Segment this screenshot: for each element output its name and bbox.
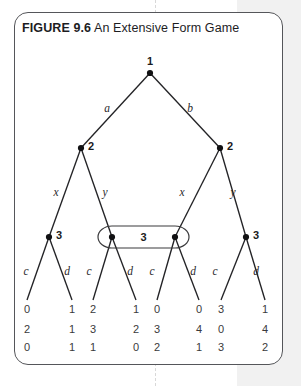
action-label-y: y: [229, 186, 236, 199]
payoff-value: 2: [90, 303, 96, 315]
decision-node-player-3: [172, 234, 178, 240]
decision-node-player-3: [109, 234, 115, 240]
tree-edge-c: [93, 237, 112, 300]
tree-edge-labels: abxyxycdcdcdcd: [23, 102, 259, 277]
tree-edges: [27, 73, 265, 300]
tree-edge-c: [157, 237, 175, 300]
payoff-value: 2: [154, 341, 160, 353]
payoff-value: 1: [196, 341, 202, 353]
decision-node-player-2: [78, 145, 84, 151]
payoff-value: 4: [196, 323, 202, 335]
action-label-d: d: [127, 265, 133, 277]
tree-edge-c: [27, 237, 49, 300]
action-label-a: a: [104, 102, 110, 114]
payoff-value: 0: [218, 323, 224, 335]
payoff-value: 1: [133, 303, 139, 315]
payoff-value: 1: [262, 303, 268, 315]
payoff-value: 3: [154, 323, 160, 335]
decision-node-player-3: [46, 234, 52, 240]
action-label-d: d: [64, 265, 70, 277]
payoff-value: 0: [24, 303, 30, 315]
action-label-b: b: [187, 102, 193, 114]
node-player-label: 3: [56, 229, 62, 241]
node-player-label: 2: [227, 140, 233, 152]
figure-page: FIGURE 9.6 An Extensive Form Game 3 1223…: [0, 0, 301, 386]
payoff-value: 2: [133, 323, 139, 335]
action-label-x: x: [178, 186, 185, 198]
node-player-label: 2: [88, 140, 94, 152]
payoff-value: 1: [69, 323, 75, 335]
payoff-matrix: 020111231120032041303142: [24, 303, 268, 353]
payoff-value: 1: [69, 303, 75, 315]
payoff-value: 2: [262, 341, 268, 353]
action-label-y: y: [101, 186, 108, 199]
tree-edge-c: [221, 237, 246, 300]
payoff-value: 0: [196, 303, 202, 315]
action-label-c: c: [86, 265, 91, 277]
payoff-value: 1: [69, 341, 75, 353]
payoff-value: 1: [90, 341, 96, 353]
decision-node-player-2: [217, 145, 223, 151]
payoff-value: 3: [218, 303, 224, 315]
payoff-value: 0: [154, 303, 160, 315]
decision-node-player-1: [147, 70, 153, 76]
node-player-label: 3: [253, 229, 259, 241]
tree-edge-a: [81, 73, 150, 148]
game-tree: 3 12233 abxyxycdcdcdcd 02011123112003204…: [0, 0, 301, 386]
action-label-d: d: [190, 265, 196, 277]
action-label-d: d: [253, 265, 259, 277]
tree-nodes: 12233: [46, 55, 259, 241]
payoff-value: 3: [90, 323, 96, 335]
payoff-value: 2: [24, 323, 30, 335]
payoff-value: 3: [218, 341, 224, 353]
payoff-value: 0: [24, 341, 30, 353]
tree-edge-b: [150, 73, 220, 148]
action-label-c: c: [212, 265, 217, 277]
action-label-c: c: [23, 265, 28, 277]
payoff-value: 0: [133, 341, 139, 353]
node-player-label: 1: [147, 55, 153, 67]
action-label-c: c: [149, 265, 154, 277]
payoff-value: 4: [262, 323, 268, 335]
action-label-x: x: [52, 186, 59, 198]
decision-node-player-3: [243, 234, 249, 240]
information-set-label: 3: [140, 231, 146, 243]
